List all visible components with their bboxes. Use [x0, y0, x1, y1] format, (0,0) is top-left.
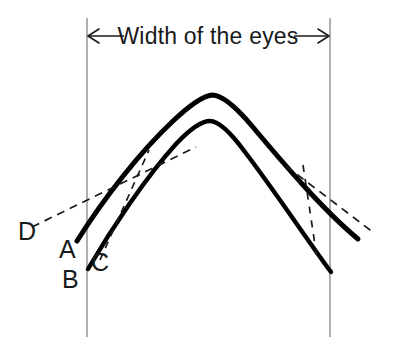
dimension-arrow-right — [294, 29, 329, 43]
left-tangent-dashed-line — [32, 147, 196, 227]
inner-arch-curve — [88, 121, 331, 272]
point-label-c: C — [91, 248, 109, 276]
point-label-a: A — [59, 235, 76, 263]
dimension-label: Width of the eyes — [117, 23, 298, 49]
left-short-tangent-dashed-line — [100, 150, 149, 260]
point-label-d: D — [18, 217, 36, 245]
diagram-canvas: Width of the eyes D A B C — [0, 0, 394, 357]
eyebrow-arch-diagram: Width of the eyes D A B C — [0, 0, 394, 357]
point-label-b: B — [62, 265, 79, 293]
